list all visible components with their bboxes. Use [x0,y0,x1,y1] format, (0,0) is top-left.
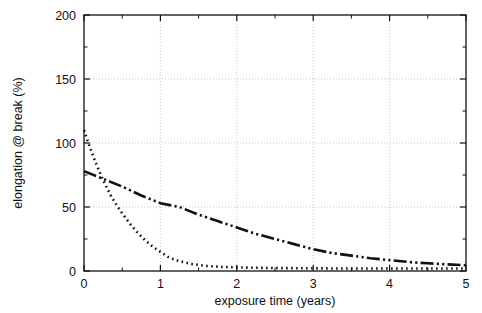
clipped-title-text [0,0,482,3]
y-tick-label: 100 [55,137,76,151]
elongation-vs-exposure-time-chart: 012345 050100150200 exposure time (years… [0,0,482,313]
x-tick-label: 0 [81,277,88,291]
x-tick-label: 5 [463,277,470,291]
y-tick-label: 150 [55,73,76,87]
x-tick-label: 4 [386,277,393,291]
chart-figure: 012345 050100150200 exposure time (years… [0,0,482,313]
x-tick-label: 1 [157,277,164,291]
y-axis-label: elongation @ break (%) [11,77,25,209]
y-tick-label: 50 [62,201,76,215]
x-tick-label: 3 [310,277,317,291]
y-tick-label: 200 [55,9,76,23]
y-tick-label: 0 [69,265,76,279]
x-axis-label: exposure time (years) [215,294,336,308]
x-tick-label: 2 [233,277,240,291]
